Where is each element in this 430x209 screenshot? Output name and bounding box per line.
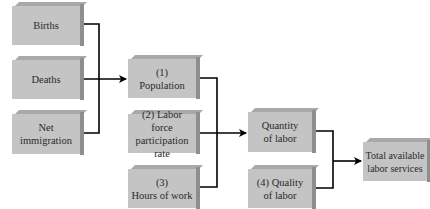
labor-services-diagram: Births Deaths Net immigration (1) Popula…	[0, 0, 430, 209]
total-line1: Total available	[366, 149, 425, 162]
births-label: Births	[33, 19, 59, 32]
hours-line1: (3)	[156, 176, 168, 189]
quality-line1: (4) Quality	[257, 176, 303, 189]
participation-line2: participation	[135, 134, 188, 147]
population-line2: Population	[139, 79, 185, 92]
participation-line3: rate	[154, 147, 170, 160]
quantity-line1: Quantity	[262, 119, 299, 132]
quantity-line2: of labor	[264, 132, 297, 145]
deaths-label: Deaths	[31, 73, 60, 86]
net-immigration-line2: immigration	[20, 134, 72, 147]
participation-line1: (2) Labor force	[130, 108, 194, 134]
net-immigration-line1: Net	[38, 121, 53, 134]
quality-line2: of labor	[264, 189, 297, 202]
population-line1: (1)	[156, 66, 168, 79]
total-line2: labor services	[367, 162, 422, 175]
hours-line2: Hours of work	[131, 189, 192, 202]
